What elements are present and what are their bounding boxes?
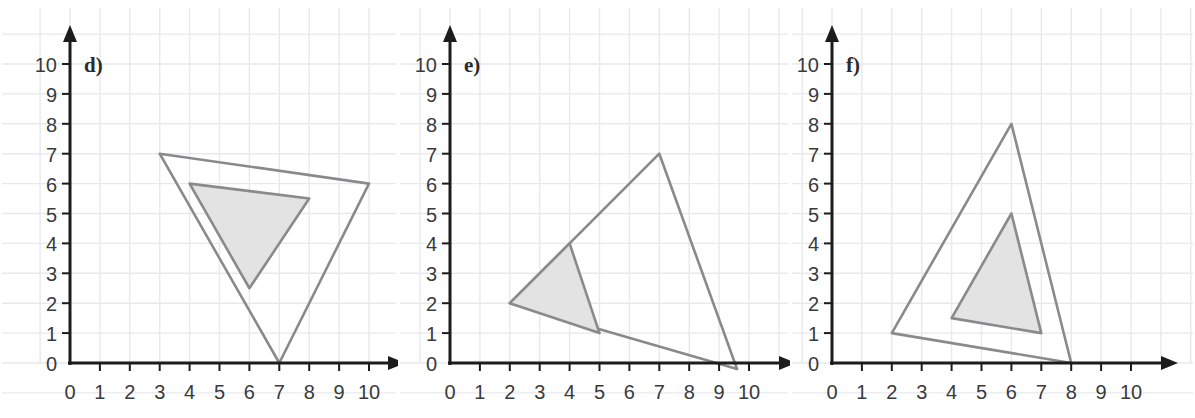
large-triangle bbox=[510, 154, 737, 369]
x-tick-label: 9 bbox=[1096, 381, 1107, 403]
y-tick-label: 0 bbox=[808, 353, 819, 375]
y-tick-label: 10 bbox=[35, 54, 57, 76]
x-tick-labels: 012345678910 bbox=[64, 381, 380, 403]
x-tick-label: 5 bbox=[594, 381, 605, 403]
x-tick-label: 8 bbox=[684, 381, 695, 403]
x-tick-label: 9 bbox=[334, 381, 345, 403]
x-tick-label: 10 bbox=[738, 381, 760, 403]
y-tick-label: 3 bbox=[426, 263, 437, 285]
y-tick-labels: 012345678910 bbox=[415, 54, 437, 375]
x-tick-label: 8 bbox=[304, 381, 315, 403]
panel-d: 012345678910012345678910d) bbox=[0, 0, 398, 418]
y-tick-label: 2 bbox=[808, 293, 819, 315]
y-tick-label: 3 bbox=[808, 263, 819, 285]
y-tick-label: 7 bbox=[46, 144, 57, 166]
y-tick-label: 3 bbox=[46, 263, 57, 285]
x-tick-label: 5 bbox=[214, 381, 225, 403]
y-tick-label: 7 bbox=[808, 144, 819, 166]
worksheet-page: 012345678910012345678910d)01234567891001… bbox=[0, 0, 1195, 418]
x-tick-label: 0 bbox=[444, 381, 455, 403]
y-tick-label: 1 bbox=[426, 323, 437, 345]
x-tick-label: 3 bbox=[154, 381, 165, 403]
y-tick-label: 8 bbox=[46, 114, 57, 136]
y-tick-label: 6 bbox=[46, 174, 57, 196]
x-tick-label: 2 bbox=[886, 381, 897, 403]
x-tick-label: 10 bbox=[358, 381, 380, 403]
y-tick-label: 4 bbox=[46, 233, 57, 255]
x-axis-arrow-icon bbox=[779, 356, 790, 370]
x-tick-label: 1 bbox=[94, 381, 105, 403]
small-triangle-shaded bbox=[510, 243, 600, 333]
x-tick-label: 7 bbox=[274, 381, 285, 403]
y-tick-label: 2 bbox=[426, 293, 437, 315]
panel-f: 012345678910012345678910f) bbox=[790, 0, 1195, 418]
x-tick-label: 1 bbox=[474, 381, 485, 403]
panel-e: 012345678910012345678910e) bbox=[398, 0, 790, 418]
y-tick-labels: 012345678910 bbox=[35, 54, 57, 375]
y-tick-label: 2 bbox=[46, 293, 57, 315]
x-tick-label: 5 bbox=[976, 381, 987, 403]
panel-letter-label: e) bbox=[464, 53, 480, 77]
y-tick-label: 10 bbox=[797, 54, 819, 76]
x-tick-label: 4 bbox=[184, 381, 195, 403]
y-tick-label: 6 bbox=[426, 174, 437, 196]
x-tick-label: 7 bbox=[1036, 381, 1047, 403]
y-tick-label: 5 bbox=[426, 204, 437, 226]
x-tick-labels: 012345678910 bbox=[444, 381, 760, 403]
x-axis-arrow-icon bbox=[388, 356, 398, 370]
x-tick-label: 8 bbox=[1066, 381, 1077, 403]
y-tick-label: 8 bbox=[808, 114, 819, 136]
x-tick-label: 3 bbox=[534, 381, 545, 403]
x-tick-label: 6 bbox=[1006, 381, 1017, 403]
y-tick-label: 4 bbox=[808, 233, 819, 255]
y-tick-label: 5 bbox=[808, 204, 819, 226]
y-tick-label: 0 bbox=[46, 353, 57, 375]
y-tick-label: 4 bbox=[426, 233, 437, 255]
y-tick-label: 1 bbox=[46, 323, 57, 345]
y-tick-label: 7 bbox=[426, 144, 437, 166]
x-tick-label: 4 bbox=[564, 381, 575, 403]
x-tick-label: 4 bbox=[946, 381, 957, 403]
y-tick-label: 8 bbox=[426, 114, 437, 136]
x-tick-label: 6 bbox=[244, 381, 255, 403]
x-axis-arrow-icon bbox=[1161, 356, 1178, 370]
panel-letter-label: d) bbox=[84, 53, 103, 77]
x-tick-label: 1 bbox=[856, 381, 867, 403]
x-tick-label: 0 bbox=[826, 381, 837, 403]
y-tick-label: 9 bbox=[808, 84, 819, 106]
y-tick-label: 0 bbox=[426, 353, 437, 375]
x-tick-label: 9 bbox=[714, 381, 725, 403]
y-tick-labels: 012345678910 bbox=[797, 54, 819, 375]
x-tick-label: 2 bbox=[124, 381, 135, 403]
y-tick-label: 6 bbox=[808, 174, 819, 196]
x-tick-label: 0 bbox=[64, 381, 75, 403]
x-tick-label: 6 bbox=[624, 381, 635, 403]
x-tick-labels: 012345678910 bbox=[826, 381, 1142, 403]
x-tick-label: 10 bbox=[1120, 381, 1142, 403]
panel-letter-label: f) bbox=[846, 53, 860, 77]
y-tick-label: 5 bbox=[46, 204, 57, 226]
grid-lines bbox=[400, 8, 788, 393]
y-tick-label: 1 bbox=[808, 323, 819, 345]
x-tick-label: 7 bbox=[654, 381, 665, 403]
y-tick-label: 10 bbox=[415, 54, 437, 76]
x-tick-label: 2 bbox=[504, 381, 515, 403]
y-tick-label: 9 bbox=[46, 84, 57, 106]
y-tick-label: 9 bbox=[426, 84, 437, 106]
x-tick-label: 3 bbox=[916, 381, 927, 403]
